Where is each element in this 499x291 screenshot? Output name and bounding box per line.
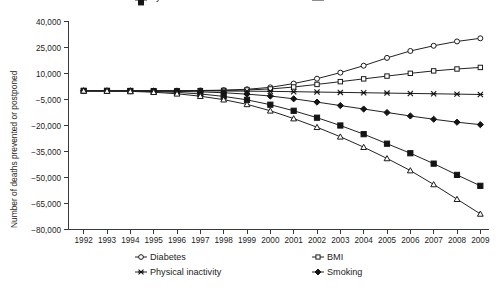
- x-tick-label: 1998: [215, 236, 234, 245]
- marker-open-square: [478, 65, 482, 69]
- marker-open-circle: [315, 76, 320, 81]
- x-tick-label: 2001: [285, 236, 304, 245]
- marker-open-square: [338, 79, 342, 83]
- x-tick-label: 1997: [191, 236, 210, 245]
- marker-open-square: [455, 67, 459, 71]
- marker-filled-square: [314, 115, 319, 120]
- x-tick-label: 2005: [378, 236, 397, 245]
- y-tick-label: −20,000: [31, 122, 61, 131]
- x-tick-label: 1993: [98, 236, 117, 245]
- y-tick-label: 10,000: [36, 70, 61, 79]
- x-tick-label: 2003: [331, 236, 350, 245]
- x-tick-label: 1992: [75, 236, 94, 245]
- x-tick-label: 1999: [238, 236, 257, 245]
- marker-open-circle: [431, 43, 436, 48]
- marker-open-square: [316, 255, 320, 259]
- marker-open-square: [361, 77, 365, 81]
- marker-open-circle: [139, 255, 144, 260]
- y-tick-label: 40,000: [36, 18, 61, 27]
- y-tick-label: −80,000: [31, 226, 61, 235]
- x-tick-label: 1995: [145, 236, 164, 245]
- marker-filled-square: [478, 183, 483, 188]
- x-tick-label: 2002: [308, 236, 327, 245]
- legend-label: Physical inactivity: [150, 267, 222, 277]
- x-tick-label: 2004: [355, 236, 374, 245]
- marker-open-circle: [385, 55, 390, 60]
- x-tick-label: 2006: [401, 236, 420, 245]
- y-tick-label: −5,000: [36, 96, 62, 105]
- legend-label: Total Cholesterol: [327, 0, 395, 2]
- y-axis-title: Number of deaths prevented or postponed: [9, 70, 19, 228]
- y-tick-label: −65,000: [31, 200, 61, 209]
- marker-filled-square: [361, 132, 366, 137]
- x-tick-label: 1996: [168, 236, 187, 245]
- marker-open-circle: [478, 36, 483, 41]
- legend-label: Systolic Blood Pressure: [150, 0, 246, 2]
- y-axis-title-label: Number of deaths prevented or postponed: [9, 70, 19, 228]
- marker-filled-square: [268, 102, 273, 107]
- x-tick-label: 2007: [425, 236, 444, 245]
- x-tick-label: 2009: [471, 236, 490, 245]
- marker-open-square: [408, 71, 412, 75]
- legend-label: Diabetes: [150, 252, 186, 262]
- x-tick-label: 2008: [448, 236, 467, 245]
- y-tick-label: −35,000: [31, 148, 61, 157]
- marker-filled-square: [291, 108, 296, 113]
- x-tick-label: 1994: [121, 236, 140, 245]
- chart-background: [0, 0, 499, 291]
- marker-filled-square: [384, 141, 389, 146]
- marker-filled-square: [338, 123, 343, 128]
- marker-open-square: [385, 74, 389, 78]
- marker-open-circle: [338, 70, 343, 75]
- marker-open-circle: [361, 63, 366, 68]
- legend-label: BMI: [327, 252, 343, 262]
- marker-filled-square: [139, 0, 144, 5]
- marker-open-circle: [408, 48, 413, 53]
- chart-figure: Number of deaths prevented or postponed …: [0, 0, 499, 291]
- x-tick-label: 2000: [261, 236, 280, 245]
- marker-open-square: [291, 85, 295, 89]
- marker-open-square: [431, 69, 435, 73]
- marker-open-square: [315, 82, 319, 86]
- y-tick-label: −50,000: [31, 174, 61, 183]
- marker-open-circle: [455, 39, 460, 44]
- marker-filled-square: [408, 151, 413, 156]
- marker-filled-square: [431, 161, 436, 166]
- y-tick-label: 25,000: [36, 44, 61, 53]
- marker-filled-square: [454, 172, 459, 177]
- legend-label: Smoking: [327, 267, 362, 277]
